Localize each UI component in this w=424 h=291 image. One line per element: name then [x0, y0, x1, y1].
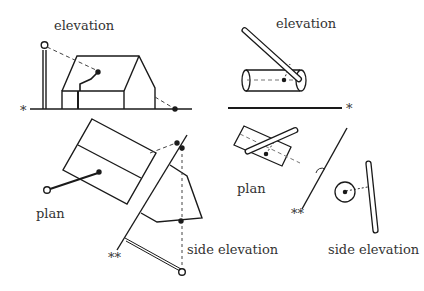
- cylinder-side-elevation-view: [335, 161, 378, 233]
- house-elevation-view: [30, 42, 192, 111]
- cylinder-plan-view: [234, 126, 347, 209]
- double-star-marker-right: **: [291, 206, 305, 221]
- label-right-elevation: elevation: [276, 16, 337, 31]
- label-left-elevation: elevation: [54, 18, 115, 33]
- shadow-projection-diagram: * * elevation plan ** side elevation: [0, 0, 424, 291]
- light-source-icon: [41, 42, 48, 49]
- label-right-side-elevation: side elevation: [328, 242, 420, 257]
- label-left-plan: plan: [36, 206, 65, 221]
- cylinder-elevation-view: [228, 27, 342, 108]
- label-left-side-elevation: side elevation: [187, 242, 279, 257]
- house-plan-view: [44, 119, 187, 250]
- label-right-plan: plan: [237, 181, 266, 196]
- star-marker-right: *: [346, 101, 353, 116]
- star-marker-left: *: [20, 103, 27, 118]
- double-star-marker-left: **: [108, 250, 122, 265]
